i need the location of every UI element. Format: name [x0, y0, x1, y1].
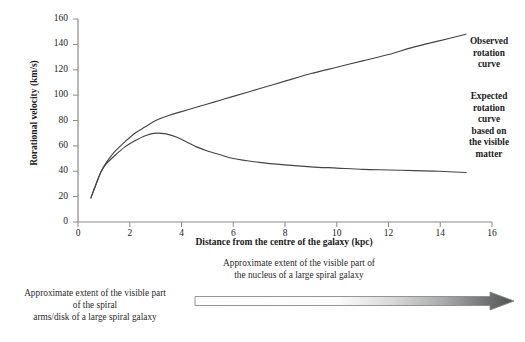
- y-tick-label-40: 40: [44, 165, 68, 175]
- y-tick-label-140: 140: [44, 38, 68, 48]
- expected-label-line-6: matter: [458, 149, 520, 161]
- observed-rotation-curve: [91, 34, 466, 198]
- expected-label-line-2: rotation: [458, 103, 520, 115]
- observed-label-line-3: curve: [458, 59, 520, 71]
- y-axis-ticks: [73, 19, 78, 222]
- expected-label-line-3: curve: [458, 114, 520, 126]
- disk-caption-line-2: of the spiral: [2, 300, 188, 312]
- expected-rotation-curve-label: Expected rotation curve based on the vis…: [458, 91, 520, 161]
- y-tick-label-120: 120: [44, 64, 68, 74]
- y-tick-label-100: 100: [44, 89, 68, 99]
- nucleus-caption-line-1: Approximate extent of the visible part o…: [184, 258, 414, 270]
- nucleus-caption-line-2: the nucleus of a large spiral galaxy: [184, 270, 414, 282]
- y-tick-label-0: 0: [44, 216, 68, 226]
- expected-rotation-curve: [91, 133, 466, 198]
- chart-svg: [0, 0, 525, 250]
- expected-label-line-4: based on: [458, 126, 520, 138]
- y-axis-title: Rorational velocity (km/s): [29, 33, 39, 193]
- observed-rotation-curve-label: Observed rotation curve: [458, 36, 520, 71]
- y-tick-label-80: 80: [44, 115, 68, 125]
- y-tick-label-20: 20: [44, 191, 68, 201]
- observed-label-line-1: Observed: [458, 36, 520, 48]
- x-axis-title: Distance from the centre of the galaxy (…: [78, 237, 490, 247]
- expected-label-line-1: Expected: [458, 91, 520, 103]
- visible-disk-extent-caption: Approximate extent of the visible part o…: [2, 288, 188, 323]
- extent-arrow-shape: [195, 292, 514, 310]
- rotation-curve-figure: 160 140 120 100 80 60 40 20 0 0 2 4 6 8 …: [0, 0, 525, 342]
- observed-label-line-2: rotation: [458, 48, 520, 60]
- chart-plot-area: 160 140 120 100 80 60 40 20 0 0 2 4 6 8 …: [0, 0, 525, 250]
- galaxy-extent-arrow: [194, 291, 516, 311]
- y-tick-label-60: 60: [44, 140, 68, 150]
- disk-caption-line-3: arms/disk of a large spiral galaxy: [2, 312, 188, 324]
- y-tick-label-160: 160: [44, 13, 68, 23]
- visible-nucleus-extent-caption: Approximate extent of the visible part o…: [184, 258, 414, 282]
- expected-label-line-5: the visible: [458, 137, 520, 149]
- disk-caption-line-1: Approximate extent of the visible part: [2, 288, 188, 300]
- x-axis-ticks: [78, 222, 492, 227]
